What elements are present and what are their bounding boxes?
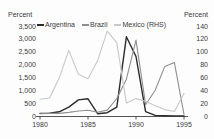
inflation-chart-panel: Inflation Rates Percent Percent Argentin… <box>0 0 214 139</box>
left-y-tick-label: 2,000 <box>0 61 36 68</box>
left-y-tick-label: 1,000 <box>0 87 36 94</box>
left-y-tick-label: 500 <box>0 100 36 107</box>
x-tick-label: 1985 <box>73 121 103 128</box>
right-y-tick-label: 120 <box>186 35 208 42</box>
series-line-brazil <box>40 40 184 114</box>
x-tick-label: 1995 <box>169 121 199 128</box>
left-y-tick-label: 2,500 <box>0 48 36 55</box>
left-y-tick-label: 1,500 <box>0 74 36 81</box>
left-y-tick-label: 0 <box>0 113 36 120</box>
x-tick-label: 1980 <box>25 121 55 128</box>
right-y-tick-label: 140 <box>186 23 208 30</box>
left-y-tick-label: 3,000 <box>0 35 36 42</box>
right-y-tick-label: 80 <box>186 61 208 68</box>
right-y-tick-label: 100 <box>186 48 208 55</box>
left-y-tick-label: 3,500 <box>0 23 36 30</box>
right-y-tick-label: 20 <box>186 100 208 107</box>
right-y-tick-label: 40 <box>186 87 208 94</box>
x-tick-label: 1990 <box>121 121 151 128</box>
right-y-tick-label: 0 <box>186 113 208 120</box>
right-y-tick-label: 60 <box>186 74 208 81</box>
